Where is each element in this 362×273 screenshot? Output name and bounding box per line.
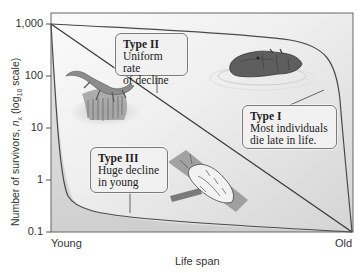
xtick-young: Young [51,237,82,249]
type-ii-desc-line2: of decline [123,74,181,86]
survivorship-chart: 1,000 100 10 1 0.1 Young Old Life span N… [0,0,362,273]
type-ii-desc-line1: Uniform rate [123,50,181,74]
type-iii-title: Type III [98,152,161,164]
type-i-callout: Type I Most individuals die late in life… [242,105,337,149]
type-i-desc-line2: die late in life. [250,134,330,146]
type-i-desc-line1: Most individuals [250,122,330,134]
ytick-1000: 1,000 [3,17,43,29]
ytick-0-1: 0.1 [3,225,43,237]
y-axis-ticks [46,24,51,232]
type-iii-callout: Type III Huge decline in young [90,147,168,193]
type-ii-title: Type II [123,38,181,50]
type-i-title: Type I [250,110,330,122]
type-ii-callout: Type II Uniform rate of decline [115,33,188,76]
type-iii-desc-line2: in young [98,176,161,188]
x-axis-title: Life span [175,255,220,267]
type-iii-desc-line1: Huge decline [98,164,161,176]
xtick-old: Old [335,237,352,249]
y-axis-title: Number of survivors, nx (log10 scale) [9,58,23,226]
